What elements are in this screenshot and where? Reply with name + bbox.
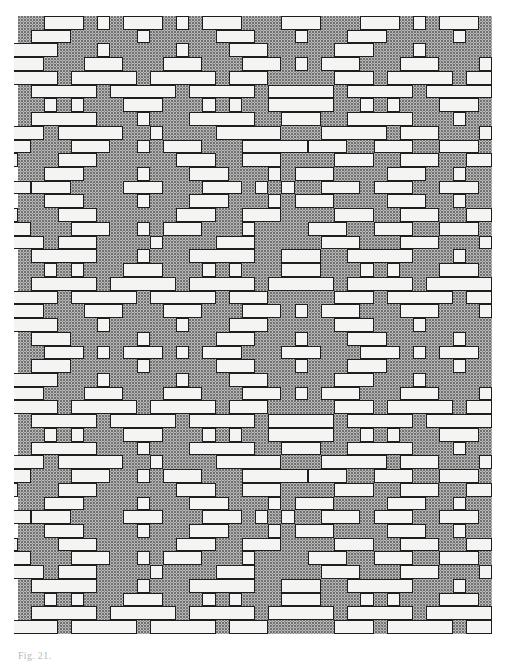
weft-float <box>453 524 466 538</box>
weft-float <box>14 538 18 552</box>
weft-float <box>14 565 44 579</box>
weft-float <box>295 304 308 318</box>
weft-float <box>334 620 374 634</box>
weft-float <box>295 387 308 401</box>
weft-float <box>71 98 84 112</box>
weft-float <box>453 194 466 208</box>
weft-float <box>176 153 216 167</box>
weft-float <box>137 551 150 565</box>
weft-float <box>176 16 189 30</box>
weft-float <box>413 16 426 30</box>
weft-float <box>229 291 269 305</box>
weft-float <box>374 222 414 236</box>
weft-float <box>58 538 98 552</box>
weft-float <box>387 291 453 305</box>
weft-float <box>189 167 229 181</box>
weft-float <box>242 483 282 497</box>
weft-float <box>479 57 492 71</box>
weft-float <box>229 373 269 387</box>
weft-float <box>347 112 413 126</box>
weft-float <box>387 98 400 112</box>
weft-float <box>400 483 440 497</box>
weft-float <box>163 387 203 401</box>
weft-float <box>14 71 58 85</box>
weft-float <box>137 579 150 593</box>
weft-float <box>453 442 466 456</box>
weft-float <box>44 524 84 538</box>
weft-float <box>308 469 348 483</box>
weft-float <box>123 98 163 112</box>
weft-float <box>400 538 440 552</box>
weft-float <box>14 455 44 469</box>
weft-float <box>413 318 426 332</box>
weft-float <box>14 387 44 401</box>
weft-float <box>242 57 282 71</box>
weft-float <box>71 291 137 305</box>
weft-float <box>176 373 189 387</box>
weft-float <box>202 593 215 607</box>
weft-float <box>453 497 466 511</box>
weft-float <box>281 249 321 263</box>
weft-float <box>334 43 374 57</box>
weft-float <box>400 565 440 579</box>
weft-float <box>189 194 229 208</box>
weft-float <box>321 510 361 524</box>
weft-float <box>255 510 268 524</box>
weft-float <box>110 277 176 291</box>
weft-float <box>14 483 18 497</box>
weft-float <box>242 140 308 154</box>
weft-float <box>387 263 400 277</box>
weft-float <box>347 442 413 456</box>
weft-float <box>44 346 84 360</box>
weft-float <box>123 428 163 442</box>
weft-float <box>176 208 216 222</box>
weft-float <box>400 236 440 250</box>
weft-float <box>137 332 150 346</box>
weft-float <box>14 57 44 71</box>
weft-float <box>31 414 97 428</box>
weft-float <box>268 606 334 620</box>
weft-float <box>31 85 97 99</box>
weft-float <box>150 565 163 579</box>
weft-float <box>44 167 84 181</box>
weft-float <box>44 263 57 277</box>
weft-float <box>123 510 163 524</box>
weft-float <box>216 126 282 140</box>
weft-float <box>229 98 242 112</box>
weft-float <box>281 510 294 524</box>
weft-float <box>400 126 440 140</box>
weft-float <box>321 565 361 579</box>
weft-float <box>321 304 361 318</box>
weft-float <box>268 194 281 208</box>
weft-float <box>439 140 479 154</box>
weft-float <box>321 181 361 195</box>
weft-float <box>229 400 269 414</box>
weft-float <box>295 57 308 71</box>
weft-float <box>400 304 440 318</box>
weft-float <box>202 428 215 442</box>
weft-float <box>479 455 492 469</box>
weft-float <box>453 249 466 263</box>
weft-float <box>58 208 98 222</box>
weft-float <box>71 71 137 85</box>
weft-float <box>71 140 111 154</box>
weft-float <box>347 332 387 346</box>
weft-float <box>229 71 269 85</box>
weft-float <box>44 428 57 442</box>
weft-float <box>71 620 137 634</box>
weft-float <box>374 469 414 483</box>
weft-float <box>123 346 163 360</box>
weft-float <box>216 236 256 250</box>
weft-float <box>202 346 242 360</box>
weft-float <box>14 222 31 236</box>
weft-float <box>439 181 479 195</box>
weft-float <box>71 428 84 442</box>
weft-float <box>360 263 373 277</box>
weft-float <box>163 304 203 318</box>
weft-float <box>137 442 150 456</box>
weft-float <box>97 43 110 57</box>
weft-float <box>31 249 97 263</box>
weft-float <box>189 579 255 593</box>
weft-float <box>58 153 98 167</box>
weft-float <box>137 194 150 208</box>
